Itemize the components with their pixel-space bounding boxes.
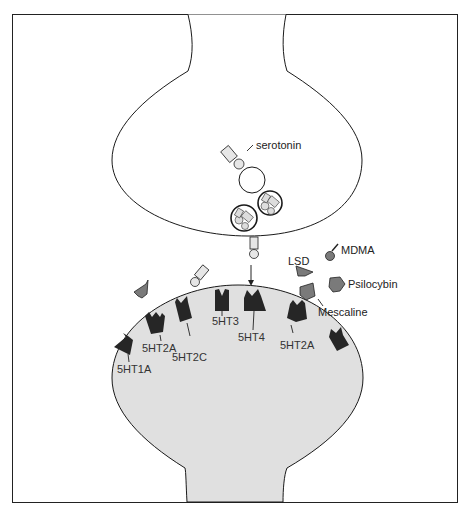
- empty-vesicle: [239, 167, 265, 193]
- receptor-label-5ht4: 5HT4: [238, 331, 265, 343]
- released-serotonin-icon: [250, 237, 259, 259]
- serotonin-label: serotonin: [256, 139, 301, 151]
- synapse-diagram: serotonin 5HT1A 5HT2A 5HT2C 5HT3 5: [0, 0, 469, 514]
- receptor-label-5ht3: 5HT3: [212, 315, 239, 327]
- drug-label-psilocybin: Psilocybin: [348, 278, 398, 290]
- receptor-label-5ht2c: 5HT2C: [172, 351, 207, 363]
- filled-vesicle-icon: [258, 191, 282, 215]
- filled-vesicle-icon: [231, 205, 257, 231]
- drug-label-lsd: LSD: [288, 255, 309, 267]
- receptor-label-5ht2a-right: 5HT2A: [280, 339, 315, 351]
- drug-label-mescaline: Mescaline: [318, 306, 368, 318]
- drug-label-mdma: MDMA: [341, 244, 375, 256]
- receptor-label-5ht1a: 5HT1A: [117, 363, 152, 375]
